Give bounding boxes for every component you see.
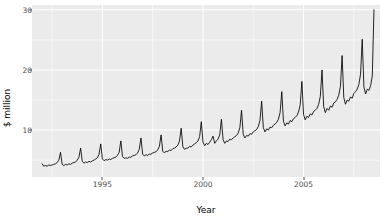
x-tick-label: 2005 — [294, 180, 313, 189]
x-tick-label: 2000 — [193, 180, 212, 189]
x-tick-mark — [102, 177, 103, 180]
y-axis-title: $ million — [0, 0, 13, 216]
x-axis-title: Year — [32, 205, 380, 215]
chart-root: $ million 102030199520002005 Year — [0, 0, 384, 216]
x-tick-label: 1995 — [93, 180, 112, 189]
plot-panel — [32, 5, 380, 177]
grid-major-layer — [32, 5, 380, 177]
grid-minor-layer — [32, 5, 380, 177]
y-tick-mark — [29, 130, 32, 131]
x-tick-mark — [202, 177, 203, 180]
x-tick-mark — [303, 177, 304, 180]
series-line-monthly-turnover — [42, 10, 374, 166]
plot-svg — [32, 5, 380, 177]
y-tick-mark — [29, 9, 32, 10]
y-tick-mark — [29, 69, 32, 70]
